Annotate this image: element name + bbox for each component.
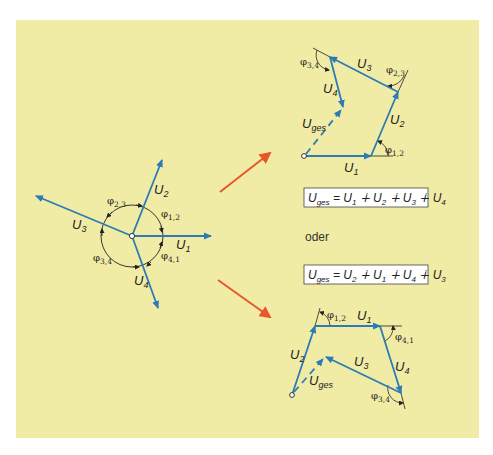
label-phi-1-2: φ1,2 [327, 309, 346, 323]
arrow-to-bottom-polygon [218, 280, 270, 317]
ref-line-4 [401, 393, 405, 409]
label-phi-2-3: φ2,3 [107, 195, 126, 209]
label-u3: U3 [72, 217, 86, 234]
ref-line-2 [315, 308, 320, 326]
label-u1: U1 [176, 237, 190, 254]
label-uges: Uges [302, 116, 326, 133]
connector-text: oder [305, 230, 329, 244]
ref-line-3 [313, 48, 330, 57]
vector-u4 [132, 236, 158, 308]
label-u2: U2 [390, 112, 404, 129]
polygon-bottom: U1 U2 U3 U4 Uges φ1,2 φ4,1 φ3,4 [290, 308, 414, 409]
formula-box-2: Uges = U2 ∔ U1 ∔ U4 ∔ U3 [304, 265, 446, 284]
label-u2: U2 [290, 347, 304, 364]
origin-point [129, 233, 134, 238]
arrow-to-top-polygon [220, 153, 270, 192]
formula-box-1: Uges = U1 ∔ U2 ∔ U3 ∔ U4 [304, 188, 446, 207]
polygon-top: U1 U2 U3 U4 Uges φ1,2 φ2,3 φ3,4 [300, 48, 408, 177]
vector-u2 [132, 160, 162, 236]
label-uges: Uges [309, 373, 333, 390]
label-u1: U1 [357, 308, 371, 325]
origin-point [290, 393, 295, 398]
origin-point [302, 154, 307, 159]
angle-marker-2-end [136, 205, 142, 206]
formula-2: Uges = U2 ∔ U1 ∔ U4 ∔ U3 [308, 268, 446, 284]
angle-marker-2-3 [107, 212, 112, 217]
label-phi-3-4: φ3,4 [371, 390, 390, 404]
label-u4: U4 [323, 81, 337, 98]
formula-1: Uges = U1 ∔ U2 ∔ U3 ∔ U4 [308, 191, 446, 207]
label-phi-4-1: φ4,1 [395, 331, 414, 345]
label-u4: U4 [395, 359, 409, 376]
star-diagram: U2 U3 U1 U4 φ1,2 φ2,3 φ3,4 φ4,1 [36, 160, 211, 308]
label-u3: U3 [354, 354, 368, 371]
label-phi-1-2: φ1,2 [161, 208, 180, 222]
label-phi-4-1: φ4,1 [161, 250, 180, 264]
label-u1: U1 [344, 160, 358, 177]
angle-arc-4-1 [385, 326, 393, 341]
label-u3: U3 [357, 56, 371, 73]
phasor-diagram: U2 U3 U1 U4 φ1,2 φ2,3 φ3,4 φ4,1 U1 U2 U3… [0, 0, 493, 455]
label-phi-2-3: φ2,3 [386, 64, 405, 78]
label-u2: U2 [154, 182, 168, 199]
label-phi-3-4: φ3,4 [93, 252, 112, 266]
